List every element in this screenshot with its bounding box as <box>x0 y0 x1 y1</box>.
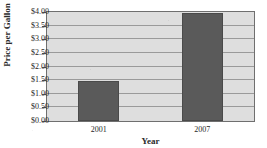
gridline <box>47 25 254 26</box>
x-tick-label-2001: 2001 <box>69 125 129 136</box>
gridline <box>47 79 254 80</box>
bar-2001 <box>78 81 119 121</box>
bar-2007 <box>182 13 223 121</box>
gridline <box>47 66 254 67</box>
gridline <box>47 11 254 12</box>
y-tick-mark <box>42 107 46 108</box>
y-tick-mark <box>42 67 46 68</box>
y-tick-mark <box>42 39 46 40</box>
y-tick-mark <box>42 53 46 54</box>
gridline <box>47 38 254 39</box>
y-tick-mark <box>42 94 46 95</box>
y-tick-mark <box>42 121 46 122</box>
chart-title: Gasoline Prices <box>80 0 190 2</box>
y-tick-mark <box>42 26 46 27</box>
y-tick-mark <box>42 12 46 13</box>
bar-chart-figure: Gasoline Prices Price per Gallon $0.00$0… <box>0 0 267 148</box>
y-tick-mark <box>42 80 46 81</box>
gridline <box>47 52 254 53</box>
x-axis-title: Year <box>46 136 255 148</box>
plot-area <box>46 11 255 122</box>
x-tick-label-2007: 2007 <box>172 125 232 136</box>
